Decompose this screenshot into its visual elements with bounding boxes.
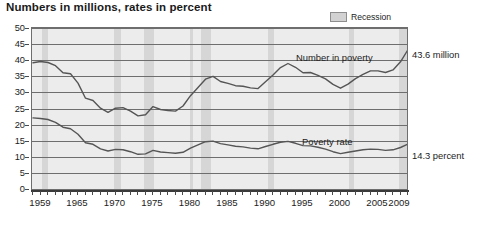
x-axis-tick-mark — [340, 191, 341, 195]
y-axis-tick-label: 50 — [15, 23, 25, 33]
y-axis-tick-label: 15 — [15, 136, 25, 146]
x-axis-tick-mark — [160, 191, 161, 195]
y-axis-tick-mark — [25, 141, 29, 142]
x-axis-tick-mark — [152, 191, 153, 195]
x-axis-tick-mark — [167, 191, 168, 195]
x-axis-tick-mark — [235, 191, 236, 195]
y-axis-tick-mark — [25, 189, 29, 190]
x-axis-tick-mark — [70, 191, 71, 195]
x-axis-tick-mark — [212, 191, 213, 195]
x-axis-tick-mark — [392, 191, 393, 195]
y-axis-tick-mark — [25, 92, 29, 93]
x-axis-tick-mark — [310, 191, 311, 195]
x-axis-tick-mark — [257, 191, 258, 195]
y-axis-tick-label: 35 — [15, 71, 25, 81]
y-axis-tick-mark — [25, 28, 29, 29]
x-axis-tick-mark — [145, 191, 146, 195]
recession-swatch-icon — [330, 12, 347, 22]
x-axis-tick-mark — [122, 191, 123, 195]
x-axis-tick-mark — [205, 191, 206, 195]
x-axis-tick-mark — [377, 191, 378, 195]
x-axis-tick-mark — [265, 191, 266, 195]
y-axis-tick-label: 25 — [15, 104, 25, 114]
x-axis-tick-mark — [137, 191, 138, 195]
y-axis-tick-label: 45 — [15, 39, 25, 49]
x-axis: 1959196519701975198019851990199520002005… — [31, 190, 409, 222]
x-axis-tick-mark — [407, 191, 408, 195]
y-axis-tick-label: 40 — [15, 55, 25, 65]
x-axis-tick-label: 1959 — [29, 197, 50, 208]
y-axis-tick-mark — [25, 125, 29, 126]
x-axis-tick-mark — [92, 191, 93, 195]
x-axis-tick-label: 1980 — [179, 197, 200, 208]
x-axis-tick-label: 2005 — [366, 197, 387, 208]
annotation-end-value-rate: 14.3 percent — [412, 150, 464, 161]
x-axis-tick-mark — [272, 191, 273, 195]
x-axis-tick-mark — [62, 191, 63, 195]
x-axis-tick-label: 1965 — [66, 197, 87, 208]
x-axis-tick-mark — [347, 191, 348, 195]
x-axis-tick-mark — [32, 191, 33, 195]
x-axis-tick-mark — [47, 191, 48, 195]
x-axis-tick-mark — [77, 191, 78, 195]
x-axis-tick-mark — [280, 191, 281, 195]
x-axis-tick-mark — [302, 191, 303, 195]
x-axis-tick-mark — [287, 191, 288, 195]
x-axis-tick-label: 1975 — [141, 197, 162, 208]
x-axis-tick-mark — [317, 191, 318, 195]
y-axis-tick-label: 30 — [15, 87, 25, 97]
y-axis-tick-mark — [25, 44, 29, 45]
x-axis-tick-mark — [40, 191, 41, 195]
x-axis-tick-mark — [362, 191, 363, 195]
x-axis-tick-mark — [295, 191, 296, 195]
y-axis-tick-mark — [25, 173, 29, 174]
x-axis-tick-label: 2009 — [388, 197, 409, 208]
legend-label-recession: Recession — [351, 12, 391, 22]
x-axis-tick-label: 1970 — [104, 197, 125, 208]
y-axis: 05101520253035404550 — [0, 20, 29, 200]
x-axis-tick-mark — [85, 191, 86, 195]
x-axis-tick-mark — [400, 191, 401, 195]
x-axis-tick-mark — [130, 191, 131, 195]
x-axis-tick-mark — [115, 191, 116, 195]
x-axis-tick-label: 1995 — [291, 197, 312, 208]
x-axis-tick-mark — [182, 191, 183, 195]
y-axis-tick-label: 20 — [15, 120, 25, 130]
x-axis-tick-mark — [55, 191, 56, 195]
page-title: Numbers in millions, rates in percent — [6, 1, 212, 13]
y-axis-tick-mark — [25, 76, 29, 77]
y-axis-tick-label: 10 — [15, 152, 25, 162]
x-axis-tick-mark — [190, 191, 191, 195]
x-axis-tick-mark — [220, 191, 221, 195]
annotation-poverty-rate: Poverty rate — [302, 136, 353, 147]
x-axis-tick-mark — [227, 191, 228, 195]
x-axis-tick-label: 1985 — [216, 197, 237, 208]
x-axis-tick-mark — [107, 191, 108, 195]
x-axis-tick-mark — [325, 191, 326, 195]
x-axis-tick-mark — [250, 191, 251, 195]
poverty-chart-figure: Numbers in millions, rates in percent Re… — [0, 0, 480, 227]
annotation-end-value-number: 43.6 million — [412, 49, 459, 60]
x-axis-tick-mark — [370, 191, 371, 195]
x-axis-tick-mark — [242, 191, 243, 195]
chart-legend: Recession — [330, 12, 391, 22]
x-axis-tick-mark — [332, 191, 333, 195]
annotation-number-in-poverty: Number in poverty — [296, 52, 373, 63]
y-axis-tick-mark — [25, 60, 29, 61]
y-axis-tick-mark — [25, 157, 29, 158]
x-axis-tick-mark — [355, 191, 356, 195]
x-axis-tick-label: 2000 — [329, 197, 350, 208]
x-axis-tick-mark — [385, 191, 386, 195]
x-axis-tick-mark — [175, 191, 176, 195]
x-axis-tick-mark — [100, 191, 101, 195]
x-axis-tick-label: 1990 — [254, 197, 275, 208]
y-axis-tick-mark — [25, 109, 29, 110]
x-axis-tick-mark — [197, 191, 198, 195]
